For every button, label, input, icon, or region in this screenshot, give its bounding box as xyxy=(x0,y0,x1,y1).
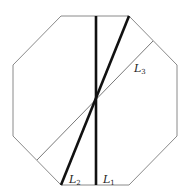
label-l2: L2 xyxy=(68,173,81,187)
label-l1: L1 xyxy=(102,173,115,187)
label-l3: L3 xyxy=(133,62,146,76)
octagon-diagram: L1 L2 L3 xyxy=(0,0,189,195)
